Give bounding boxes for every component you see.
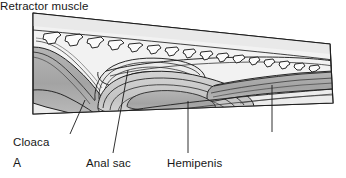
- label-hemipenis: Hemipenis: [167, 157, 222, 170]
- label-retractor-muscle: Retractor muscle: [0, 0, 89, 13]
- anatomy-illustration: [0, 0, 346, 178]
- label-anal-sac: Anal sac: [86, 157, 131, 170]
- label-cloaca: Cloaca: [13, 136, 49, 149]
- panel-letter: A: [13, 156, 21, 170]
- anatomical-figure: Cloaca Anal sac Hemipenis Retractor musc…: [0, 0, 346, 178]
